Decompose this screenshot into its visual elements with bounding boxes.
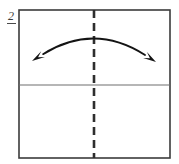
figure-container: 2	[0, 0, 179, 164]
folding-diagram-svg	[0, 0, 179, 164]
paper-sheet-outline	[19, 10, 170, 158]
